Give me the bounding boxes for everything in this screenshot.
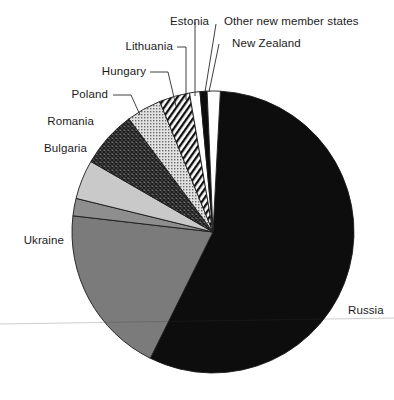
slice-label-russia: Russia (348, 304, 384, 317)
leader-line-lithuania (177, 47, 186, 100)
slice-label-other-new-member-states: Other new member states (224, 15, 359, 28)
pie-chart: Russia Ukraine Bulgaria Romania Poland H… (0, 0, 394, 400)
leader-line-poland (113, 95, 140, 115)
slice-label-hungary: Hungary (96, 65, 146, 78)
slice-label-romania: Romania (38, 115, 94, 128)
slice-label-ukraine: Ukraine (12, 234, 64, 247)
leader-line-other-new-member-states (205, 24, 216, 92)
slice-label-new-zealand: New Zealand (232, 37, 301, 50)
leader-line-new-zealand (209, 44, 219, 92)
pie-chart-canvas (0, 0, 394, 400)
slice-label-lithuania: Lithuania (118, 40, 173, 53)
slice-label-estonia: Estonia (170, 15, 209, 28)
slice-label-poland: Poland (64, 88, 108, 101)
pie-slice-group (72, 91, 354, 373)
slice-label-bulgaria: Bulgaria (31, 142, 87, 155)
